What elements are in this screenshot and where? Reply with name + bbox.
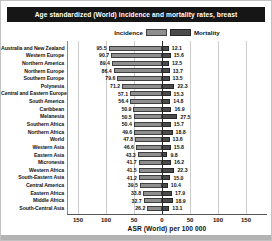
- mortality-value: 16.9: [174, 106, 184, 112]
- mortality-bar: [162, 145, 171, 150]
- incidence-bar: [117, 76, 162, 81]
- incidence-bar: [134, 130, 162, 135]
- mortality-value: 13.1: [172, 205, 182, 211]
- x-axis-tick: 150: [67, 217, 89, 223]
- region-label: Northern Africa: [1, 129, 64, 135]
- incidence-bar: [135, 137, 162, 142]
- mortality-value: 12.1: [172, 45, 182, 51]
- incidence-bar: [109, 46, 162, 51]
- incidence-value: 49.6: [122, 129, 132, 135]
- mortality-value: 18.8: [176, 129, 186, 135]
- mortality-bar: [162, 91, 171, 96]
- incidence-value: 46.6: [124, 144, 134, 150]
- incidence-value: 89.4: [100, 60, 110, 66]
- mortality-bar: [162, 76, 170, 81]
- incidence-bar: [112, 61, 162, 66]
- mortality-bar: [162, 61, 169, 66]
- incidence-value: 50.5: [122, 114, 132, 120]
- mortality-bar: [162, 130, 173, 135]
- mortality-bar: [162, 160, 171, 165]
- x-axis-label: ASR (World) per 100 000: [67, 225, 267, 232]
- mortality-value: 12.5: [172, 60, 182, 66]
- incidence-value: 86.4: [102, 68, 112, 74]
- incidence-bar: [130, 91, 162, 96]
- incidence-value: 95.5: [96, 45, 106, 51]
- mortality-value: 17.9: [175, 190, 185, 196]
- mortality-value: 13.7: [173, 68, 183, 74]
- region-label: Western Asia: [1, 144, 64, 150]
- mortality-value: 15.8: [174, 144, 184, 150]
- mortality-value: 22.3: [177, 167, 187, 173]
- gridline: [246, 41, 247, 214]
- gridline: [218, 41, 219, 214]
- incidence-value: 26.2: [135, 205, 145, 211]
- incidence-value: 79.6: [105, 75, 115, 81]
- mortality-bar: [162, 46, 169, 51]
- incidence-bar: [139, 168, 162, 173]
- mortality-value: 15.6: [174, 52, 184, 58]
- incidence-value: 39.5: [128, 182, 138, 188]
- mortality-value: 22.3: [177, 83, 187, 89]
- region-label: Central America: [1, 182, 64, 188]
- incidence-bar: [144, 198, 162, 203]
- x-axis-tick: 100: [95, 217, 117, 223]
- mortality-bar: [162, 191, 172, 196]
- incidence-bar: [139, 175, 162, 180]
- mortality-bar: [162, 68, 170, 73]
- x-axis-tick: 150: [235, 217, 257, 223]
- x-axis-tick: 0: [151, 217, 173, 223]
- plot-left-frame: [67, 41, 68, 214]
- region-label: Middle Africa: [1, 197, 64, 203]
- plot-area: Australia and New Zealand95.512.1Western…: [1, 1, 272, 241]
- bottom-margin: [1, 235, 272, 241]
- mortality-bar: [162, 114, 177, 119]
- region-label: World: [1, 136, 64, 142]
- incidence-bar: [114, 68, 162, 73]
- mortality-bar: [162, 99, 170, 104]
- incidence-value: 33.8: [131, 190, 141, 196]
- x-axis-line: [67, 214, 267, 215]
- incidence-bar: [122, 84, 162, 89]
- region-label: South-Eastern Asia: [1, 174, 64, 180]
- mortality-value: 9.8: [170, 152, 177, 158]
- incidence-value: 90.7: [99, 52, 109, 58]
- incidence-bar: [130, 99, 162, 104]
- incidence-bar: [147, 206, 162, 211]
- region-label: Western Europe: [1, 52, 64, 58]
- x-axis-tick: 50: [123, 217, 145, 223]
- mortality-bar: [162, 122, 171, 127]
- region-label: Western Africa: [1, 167, 64, 173]
- mortality-value: 27.5: [180, 114, 190, 120]
- mortality-value: 18.9: [176, 198, 186, 204]
- region-label: Caribbean: [1, 106, 64, 112]
- region-label: Melanesia: [1, 113, 64, 119]
- incidence-value: 56.4: [118, 98, 128, 104]
- x-axis-tick: 50: [179, 217, 201, 223]
- incidence-bar: [139, 160, 162, 165]
- mortality-value: 15.3: [174, 91, 184, 97]
- region-label: Southern Europe: [1, 75, 64, 81]
- region-label: Eastern Asia: [1, 152, 64, 158]
- region-label: Central and Eastern Europe: [1, 90, 64, 96]
- incidence-value: 71.2: [110, 83, 120, 89]
- incidence-value: 43.3: [126, 152, 136, 158]
- incidence-bar: [134, 122, 162, 127]
- mortality-bar: [162, 152, 167, 157]
- region-label: Northern America: [1, 60, 64, 66]
- gridline: [190, 41, 191, 214]
- region-label: Northern Europe: [1, 68, 64, 74]
- mortality-bar: [162, 198, 173, 203]
- mortality-bar: [162, 53, 171, 58]
- incidence-value: 50.9: [121, 106, 131, 112]
- incidence-bar: [143, 191, 162, 196]
- figure: Age standardized (World) incidence and m…: [0, 0, 272, 241]
- gridline: [78, 41, 79, 214]
- incidence-bar: [133, 107, 162, 112]
- mortality-value: 15.0: [173, 175, 183, 181]
- incidence-value: 41.7: [127, 159, 137, 165]
- region-label: South-Central Asia: [1, 205, 64, 211]
- region-label: Southern Africa: [1, 121, 64, 127]
- mortality-value: 13.6: [173, 136, 183, 142]
- incidence-bar: [136, 145, 162, 150]
- region-label: South America: [1, 98, 64, 104]
